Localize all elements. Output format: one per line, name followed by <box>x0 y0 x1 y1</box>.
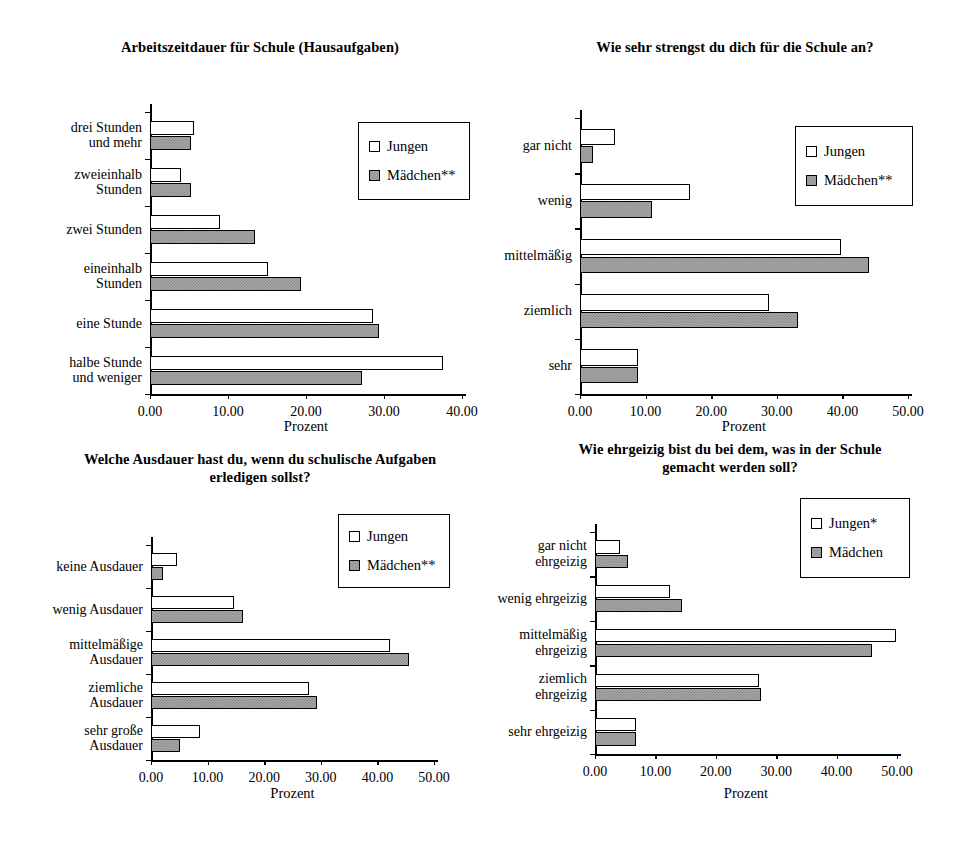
x-axis-line <box>595 754 901 756</box>
bar-jungen <box>151 553 177 566</box>
bar-jungen <box>150 168 181 182</box>
legend-label: Jungen <box>367 528 408 545</box>
bar-jungen <box>150 262 268 276</box>
bar-jungen <box>580 294 769 311</box>
legend-swatch-maedchen-icon <box>349 560 360 571</box>
figure-grid: Arbeitszeitdauer für Schule (Hausaufgabe… <box>0 0 972 855</box>
chart-title: Welche Ausdauer hast du, wenn du schulis… <box>50 450 470 486</box>
bar-maedchen <box>150 136 191 150</box>
x-axis-tick-label: 10.00 <box>630 404 662 420</box>
bar-maedchen <box>150 230 255 244</box>
chart-legend[interactable]: JungenMädchen** <box>358 122 470 200</box>
x-axis-tick <box>580 394 581 399</box>
x-axis-tick <box>908 394 909 399</box>
y-axis-category-label: halbe Stunde und weniger <box>0 355 142 386</box>
x-axis-tick <box>150 394 151 399</box>
y-axis-tick <box>146 631 151 632</box>
legend-swatch-maedchen-icon <box>806 175 817 186</box>
x-axis-tick <box>208 760 209 765</box>
legend-item[interactable]: Jungen <box>369 138 469 155</box>
y-axis-tick <box>146 717 151 718</box>
bar-maedchen <box>151 610 243 623</box>
x-axis-tick <box>377 760 378 765</box>
x-axis-tick-label: 30.00 <box>368 404 400 420</box>
x-axis-line <box>150 394 466 396</box>
legend-label: Mädchen** <box>824 172 892 189</box>
y-axis-tick <box>145 394 150 395</box>
y-axis-tick <box>146 674 151 675</box>
y-axis-category-label: drei Stunden und mehr <box>0 120 142 151</box>
x-axis-tick-label: 20.00 <box>248 770 280 786</box>
chart-title: Arbeitszeitdauer für Schule (Hausaufgabe… <box>60 38 460 56</box>
chart-legend[interactable]: Jungen*Mädchen <box>800 498 910 578</box>
x-axis-tick <box>716 754 717 759</box>
x-axis-tick-label: 10.00 <box>192 770 224 786</box>
bar-jungen <box>151 725 200 738</box>
chart-title: Wie sehr strengst du dich für die Schule… <box>535 38 935 56</box>
x-axis-line <box>151 760 438 762</box>
bar-jungen <box>150 356 443 370</box>
legend-swatch-jungen-icon <box>369 141 380 152</box>
chart-title-line: Wie ehrgeizig bist du bei dem, was in de… <box>520 440 940 458</box>
x-axis-tick-label: 0.00 <box>138 404 163 420</box>
legend-swatch-maedchen-icon <box>369 170 380 181</box>
x-axis-tick <box>777 394 778 399</box>
bar-jungen <box>150 121 194 135</box>
legend-swatch-maedchen-icon <box>811 547 822 558</box>
y-axis-category-label: ziemliche Ausdauer <box>0 680 143 711</box>
y-axis-tick <box>575 228 580 229</box>
y-axis-category-label: ziemlich <box>490 303 572 319</box>
x-axis-tick-label: 0.00 <box>568 404 593 420</box>
x-axis-tick <box>321 760 322 765</box>
y-axis-category-label: eine Stunde <box>0 316 142 332</box>
legend-item[interactable]: Jungen <box>806 143 912 160</box>
y-axis-category-label: zwei Stunden <box>0 222 142 238</box>
legend-item[interactable]: Mädchen <box>811 544 909 561</box>
chart-legend[interactable]: JungenMädchen** <box>795 126 913 206</box>
bar-maedchen <box>151 567 163 580</box>
x-axis-tick-label: 50.00 <box>418 770 450 786</box>
x-axis-title: Prozent <box>722 418 766 435</box>
legend-item[interactable]: Mädchen** <box>806 172 912 189</box>
y-axis-tick <box>590 710 595 711</box>
legend-item[interactable]: Jungen* <box>811 515 909 532</box>
y-axis-tick <box>145 300 150 301</box>
bar-maedchen <box>595 555 628 568</box>
x-axis-tick-label: 0.00 <box>139 770 164 786</box>
bar-maedchen <box>580 312 798 329</box>
y-axis-category-label: wenig Ausdauer <box>0 602 143 618</box>
chart-title-line: gemacht werden soll? <box>520 458 940 476</box>
x-axis-tick-label: 30.00 <box>760 764 792 780</box>
bar-jungen <box>151 596 234 609</box>
y-axis-tick <box>590 754 595 755</box>
chart-panel-chart-ehrgeiz: Wie ehrgeizig bist du bei dem, was in de… <box>490 440 972 855</box>
y-axis-tick <box>575 173 580 174</box>
x-axis-tick <box>264 760 265 765</box>
bar-maedchen <box>580 367 638 384</box>
bar-jungen <box>150 309 373 323</box>
y-axis-tick <box>146 760 151 761</box>
legend-item[interactable]: Jungen <box>349 528 449 545</box>
chart-legend[interactable]: JungenMädchen** <box>338 514 450 588</box>
chart-panel-chart-ausdauer: Welche Ausdauer hast du, wenn du schulis… <box>0 440 490 855</box>
legend-label: Jungen <box>387 138 428 155</box>
legend-item[interactable]: Mädchen** <box>369 167 469 184</box>
legend-label: Mädchen** <box>367 557 435 574</box>
bar-maedchen <box>595 688 761 701</box>
x-axis-line <box>580 394 912 396</box>
legend-item[interactable]: Mädchen** <box>349 557 449 574</box>
bar-jungen <box>580 129 615 146</box>
x-axis-tick-label: 40.00 <box>821 764 853 780</box>
chart-panel-chart-hausaufgaben: Arbeitszeitdauer für Schule (Hausaufgabe… <box>0 30 490 440</box>
y-axis-tick <box>575 339 580 340</box>
y-axis-category-label: keine Ausdauer <box>0 559 143 575</box>
y-axis-category-label: mittelmäßige Ausdauer <box>0 637 143 668</box>
bar-jungen <box>595 629 896 642</box>
x-axis-tick <box>776 754 777 759</box>
bar-maedchen <box>595 732 636 745</box>
x-axis-tick <box>837 754 838 759</box>
legend-swatch-jungen-icon <box>349 531 360 542</box>
bar-jungen <box>150 215 220 229</box>
bar-jungen <box>580 184 690 201</box>
x-axis-tick <box>711 394 712 399</box>
